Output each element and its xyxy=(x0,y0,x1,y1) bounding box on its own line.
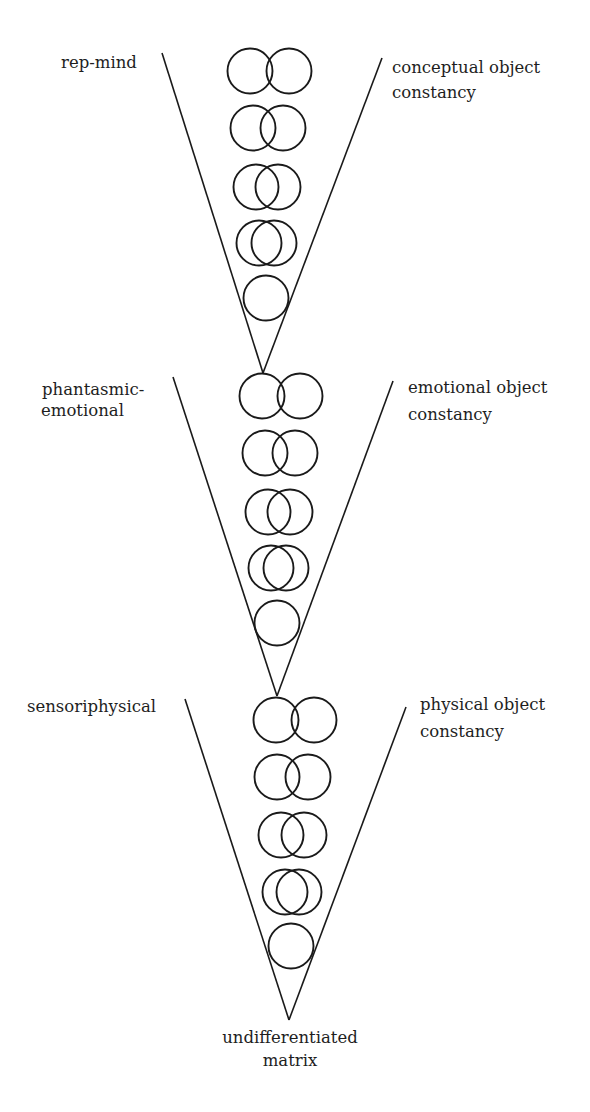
undifferentiated-matrix-label: undifferentiated matrix xyxy=(222,1028,358,1070)
level-1-v-left-edge xyxy=(162,53,263,373)
circle-merged xyxy=(269,924,314,969)
circle xyxy=(231,106,276,151)
level-3-sensoriphysical: sensoriphysical physical object constanc… xyxy=(27,695,545,1020)
level-2-phantasmic-emotional: phantasmic- emotional emotional object c… xyxy=(41,374,548,697)
label-emotional-object-constancy-line1: emotional object xyxy=(408,378,548,397)
label-rep-mind: rep-mind xyxy=(61,53,137,72)
circle xyxy=(261,106,306,151)
level-2-v-right-edge xyxy=(277,381,393,696)
label-conceptual-object-constancy-line1: conceptual object xyxy=(392,58,541,77)
developmental-levels-diagram: rep-mind conceptual object constancy pha… xyxy=(0,0,590,1112)
circle-merged xyxy=(255,601,300,646)
level-2-v-left-edge xyxy=(173,377,277,696)
label-sensoriphysical: sensoriphysical xyxy=(27,697,156,716)
circle xyxy=(273,431,318,476)
level-1-rep-mind: rep-mind conceptual object constancy xyxy=(61,49,541,374)
label-matrix: matrix xyxy=(263,1051,318,1070)
circle xyxy=(286,755,331,800)
circle xyxy=(277,870,322,915)
label-conceptual-object-constancy-line2: constancy xyxy=(392,83,477,102)
label-emotional-object-constancy-line2: constancy xyxy=(408,405,493,424)
circle xyxy=(243,431,288,476)
label-phantasmic-emotional-line1: phantasmic- xyxy=(42,380,144,399)
circle-merged xyxy=(244,276,289,321)
label-undifferentiated: undifferentiated xyxy=(222,1028,358,1047)
label-phantasmic-emotional-line2: emotional xyxy=(41,401,124,420)
level-3-v-left-edge xyxy=(185,699,289,1020)
label-physical-object-constancy-line2: constancy xyxy=(420,722,505,741)
label-physical-object-constancy-line1: physical object xyxy=(420,695,545,714)
circle xyxy=(263,870,308,915)
